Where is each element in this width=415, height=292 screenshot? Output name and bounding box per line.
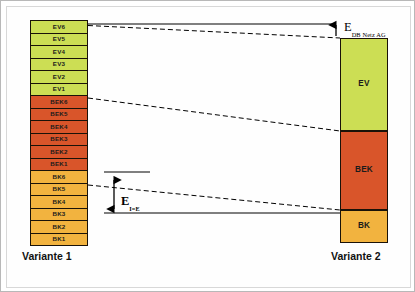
caption-variante-2: Variante 2 (331, 250, 381, 262)
connector-overlay (0, 0, 415, 292)
dashed-connector-bek-top (88, 98, 340, 131)
dashed-connector-ev-top (88, 26, 340, 39)
annotation-e-i-equals-e: EI=E (121, 191, 140, 210)
diagram-stage: EV6EV5EV4EV3EV2EV1BEK6BEK5BEK4BEK3BEK2BE… (0, 0, 415, 292)
annotation-top-symbol: E (344, 20, 352, 34)
annotation-mid-subscript: I=E (129, 205, 139, 212)
annotation-top-subscript: DB Netz AG (352, 31, 386, 38)
annotation-e-db-netz-ag: EDB Netz AG (344, 17, 386, 36)
caption-variante-1: Variante 1 (22, 250, 72, 262)
